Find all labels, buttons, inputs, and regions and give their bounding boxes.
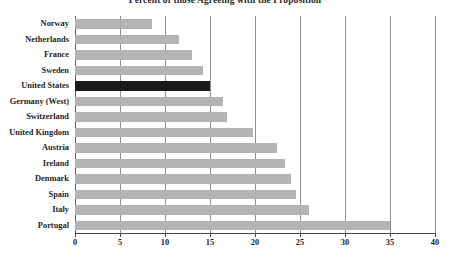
category-label-united-kingdom: United Kingdom (9, 125, 69, 142)
tick-mark-10 (165, 233, 166, 237)
chart-title: Percent of those Agreeing with the Propo… (0, 0, 450, 5)
bar-row (75, 94, 435, 111)
bar-row (75, 109, 435, 126)
category-label-united-states: United States (21, 78, 69, 95)
tick-mark-40 (435, 233, 436, 237)
bar-row (75, 156, 435, 173)
tick-mark-25 (300, 233, 301, 237)
tick-label-35: 35 (375, 238, 405, 247)
tick-mark-0 (75, 233, 76, 237)
bar-united-states (75, 81, 210, 92)
bar-denmark (75, 174, 291, 184)
tick-mark-15 (210, 233, 211, 237)
bar-rows (75, 16, 435, 233)
tick-label-5: 5 (105, 238, 135, 247)
plot-area (75, 16, 435, 233)
category-label-norway: Norway (41, 16, 69, 33)
category-label-denmark: Denmark (35, 171, 69, 188)
category-label-portugal: Portugal (38, 218, 69, 235)
bar-spain (75, 190, 296, 200)
bar-row (75, 218, 435, 235)
gridline-40 (435, 16, 436, 233)
bar-row (75, 140, 435, 157)
tick-label-25: 25 (285, 238, 315, 247)
tick-mark-5 (120, 233, 121, 237)
category-label-italy: Italy (52, 202, 69, 219)
category-label-switzerland: Switzerland (26, 109, 69, 126)
category-label-austria: Austria (42, 140, 69, 157)
bar-row (75, 202, 435, 219)
tick-mark-35 (390, 233, 391, 237)
bar-row (75, 32, 435, 49)
bar-row (75, 171, 435, 188)
bar-row (75, 16, 435, 33)
bar-portugal (75, 221, 390, 231)
bar-row (75, 78, 435, 95)
tick-mark-30 (345, 233, 346, 237)
tick-label-40: 40 (420, 238, 450, 247)
bar-austria (75, 143, 277, 153)
tick-mark-20 (255, 233, 256, 237)
category-label-netherlands: Netherlands (25, 32, 69, 49)
category-label-sweden: Sweden (42, 63, 69, 80)
category-label-france: France (44, 47, 69, 64)
tick-label-20: 20 (240, 238, 270, 247)
bar-row (75, 47, 435, 64)
category-label-ireland: Ireland (43, 156, 69, 173)
tick-label-30: 30 (330, 238, 360, 247)
bar-row (75, 125, 435, 142)
bar-switzerland (75, 112, 227, 122)
bar-ireland (75, 159, 285, 169)
bar-france (75, 50, 192, 60)
bar-sweden (75, 66, 203, 76)
category-axis-labels: NorwayNetherlandsFranceSwedenUnited Stat… (0, 16, 72, 233)
bar-netherlands (75, 35, 179, 45)
bar-row (75, 63, 435, 80)
category-label-germany-west: Germany (West) (10, 94, 69, 111)
bar-germany-west (75, 97, 223, 107)
bar-norway (75, 19, 152, 29)
tick-label-0: 0 (60, 238, 90, 247)
tick-label-15: 15 (195, 238, 225, 247)
bar-italy (75, 205, 309, 215)
bar-chart: Percent of those Agreeing with the Propo… (0, 0, 450, 253)
tick-label-10: 10 (150, 238, 180, 247)
category-label-spain: Spain (49, 187, 70, 204)
bar-united-kingdom (75, 128, 253, 138)
bar-row (75, 187, 435, 204)
